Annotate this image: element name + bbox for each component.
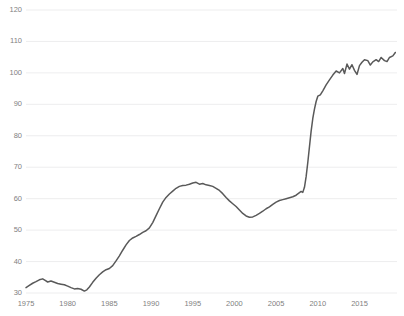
chart-plot-area: [0, 0, 404, 316]
x-tick-label-1990: 1990: [136, 300, 166, 308]
y-tick-label-80: 80: [0, 132, 22, 140]
x-tick-label-2000: 2000: [219, 300, 249, 308]
y-tick-label-40: 40: [0, 258, 22, 266]
x-tick-label-1975: 1975: [11, 300, 41, 308]
x-tick-label-1985: 1985: [94, 300, 124, 308]
x-tick-label-2010: 2010: [303, 300, 333, 308]
data-series-line: [26, 52, 395, 291]
x-tick-label-1980: 1980: [53, 300, 83, 308]
y-tick-label-110: 110: [0, 37, 22, 45]
y-tick-label-90: 90: [0, 100, 22, 108]
y-tick-label-60: 60: [0, 195, 22, 203]
y-tick-label-50: 50: [0, 226, 22, 234]
x-tick-label-1995: 1995: [178, 300, 208, 308]
y-tick-label-70: 70: [0, 163, 22, 171]
y-tick-label-120: 120: [0, 6, 22, 14]
y-tick-label-100: 100: [0, 69, 22, 77]
x-tick-label-2005: 2005: [261, 300, 291, 308]
y-tick-label-30: 30: [0, 289, 22, 297]
line-chart: 12011010090807060504030 1975198019851990…: [0, 0, 404, 316]
gridlines-group: [26, 10, 397, 293]
x-tick-label-2015: 2015: [344, 300, 374, 308]
